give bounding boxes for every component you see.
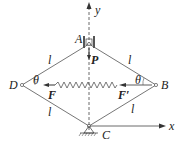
- length-label-BC: l: [131, 102, 135, 116]
- length-label-AD: l: [48, 53, 52, 67]
- angle-D-label: θ: [33, 73, 39, 87]
- angle-B-label: θ: [135, 73, 141, 87]
- force-F-arrow: [43, 83, 55, 87]
- point-D-label: D: [8, 78, 18, 92]
- point-B-label: B: [161, 78, 169, 92]
- pin-B: [154, 83, 157, 86]
- force-F-prime-label: F′: [117, 88, 129, 102]
- length-label-AB: l: [128, 53, 132, 67]
- angle-arc-B: [143, 78, 144, 85]
- point-A-label: A: [74, 32, 83, 46]
- point-C-label: C: [102, 128, 111, 142]
- length-label-DC: l: [48, 105, 52, 119]
- y-axis-label: y: [94, 3, 101, 17]
- pin-D: [20, 83, 23, 86]
- force-P-label: P: [91, 53, 99, 67]
- x-axis-label: x: [168, 119, 175, 133]
- x-axis: [89, 124, 166, 129]
- spring: [55, 82, 117, 88]
- mechanism-diagram: y x A P D B F F′: [0, 0, 181, 150]
- force-F-label: F: [47, 88, 56, 102]
